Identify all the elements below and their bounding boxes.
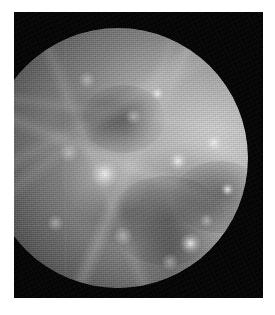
image-grain: [14, 12, 263, 298]
photograph-frame: [14, 12, 263, 298]
page-canvas: [0, 0, 275, 315]
